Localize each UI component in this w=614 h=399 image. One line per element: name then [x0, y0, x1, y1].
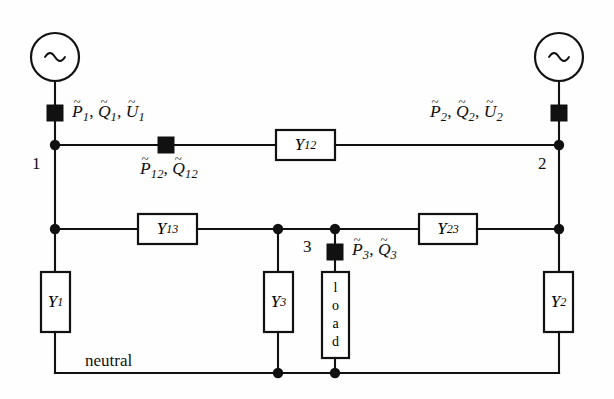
node-dot-y3-neutral: [273, 368, 283, 378]
admittance-box-y12[interactable]: [276, 130, 335, 160]
circuit-svg: [0, 0, 614, 399]
node-dot-bus3: [330, 224, 340, 234]
bus-label-3: 3: [303, 238, 312, 255]
meter-square-1[interactable]: [47, 105, 63, 121]
meter-square-12[interactable]: [158, 137, 174, 153]
neutral-label: neutral: [85, 352, 132, 369]
tilde-q2: ~Q: [456, 103, 469, 121]
node-dot-left-mid: [50, 224, 60, 234]
node-dot-y3-top: [273, 224, 283, 234]
node-dot-right-mid: [554, 224, 564, 234]
meter-square-3[interactable]: [327, 244, 343, 260]
node-dot-bus1: [50, 140, 60, 150]
load-box[interactable]: [322, 272, 349, 358]
tilde-p12: ~P: [140, 160, 151, 178]
admittance-box-y13[interactable]: [138, 214, 197, 244]
tilde-u1: ~U: [126, 103, 139, 121]
node-dot-load-neutral: [330, 368, 340, 378]
admittance-box-y3[interactable]: [264, 272, 293, 332]
tilde-p2: ~P: [430, 103, 441, 121]
admittance-box-y1[interactable]: [41, 272, 70, 332]
measurement-label-12: ~P12, ~Q12: [140, 160, 198, 180]
measurement-label-3: ~P3, ~Q3: [352, 241, 397, 261]
bus-label-2: 2: [538, 155, 547, 172]
node-dot-bus2: [554, 140, 564, 150]
tilde-q12: ~Q: [172, 160, 185, 178]
tilde-q1: ~Q: [98, 103, 111, 121]
bus-label-1: 1: [32, 155, 41, 172]
tilde-p3: ~P: [352, 241, 363, 259]
meter-square-2[interactable]: [551, 105, 567, 121]
measurement-label-1: ~P1, ~Q1, ~U1: [72, 103, 145, 123]
admittance-box-y23[interactable]: [419, 214, 477, 244]
circuit-diagram: ~P1, ~Q1, ~U1 ~P2, ~Q2, ~U2 ~P12, ~Q12 ~…: [0, 0, 614, 399]
measurement-label-2: ~P2, ~Q2, ~U2: [430, 103, 503, 123]
tilde-p1: ~P: [72, 103, 83, 121]
tilde-u2: ~U: [484, 103, 497, 121]
tilde-q3: ~Q: [378, 241, 391, 259]
admittance-box-y2[interactable]: [544, 272, 573, 332]
